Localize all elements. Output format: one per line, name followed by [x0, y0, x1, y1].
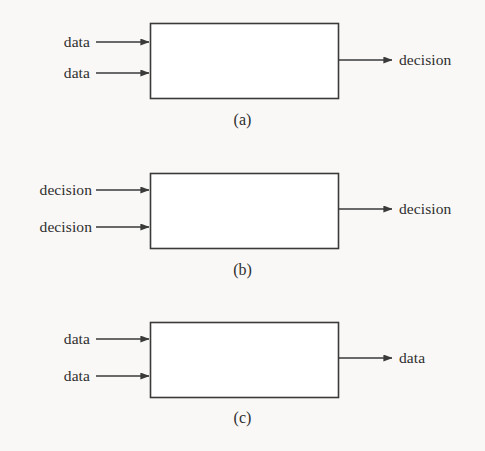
panel-caption-c: (c) — [0, 410, 485, 426]
process-box-a — [151, 24, 339, 99]
panel-b: decision decision decision (b) — [0, 150, 485, 300]
output-label-b-1: decision — [399, 201, 451, 217]
figure-root: data data decision (a) decision decision… — [0, 0, 485, 451]
panel-c: data data data (c) — [0, 299, 485, 451]
input-label-c-1: data — [20, 331, 90, 347]
panel-caption-a: (a) — [0, 112, 485, 128]
process-box-c — [151, 323, 339, 398]
input-label-b-1: decision — [0, 182, 92, 198]
output-label-a-1: decision — [399, 52, 451, 68]
input-label-b-2: decision — [0, 219, 92, 235]
input-label-a-2: data — [20, 65, 90, 81]
input-label-a-1: data — [20, 34, 90, 50]
output-label-c-1: data — [399, 350, 425, 366]
panel-a: data data decision (a) — [0, 0, 485, 150]
process-box-b — [151, 174, 339, 249]
panel-caption-b: (b) — [0, 262, 485, 278]
input-label-c-2: data — [20, 368, 90, 384]
